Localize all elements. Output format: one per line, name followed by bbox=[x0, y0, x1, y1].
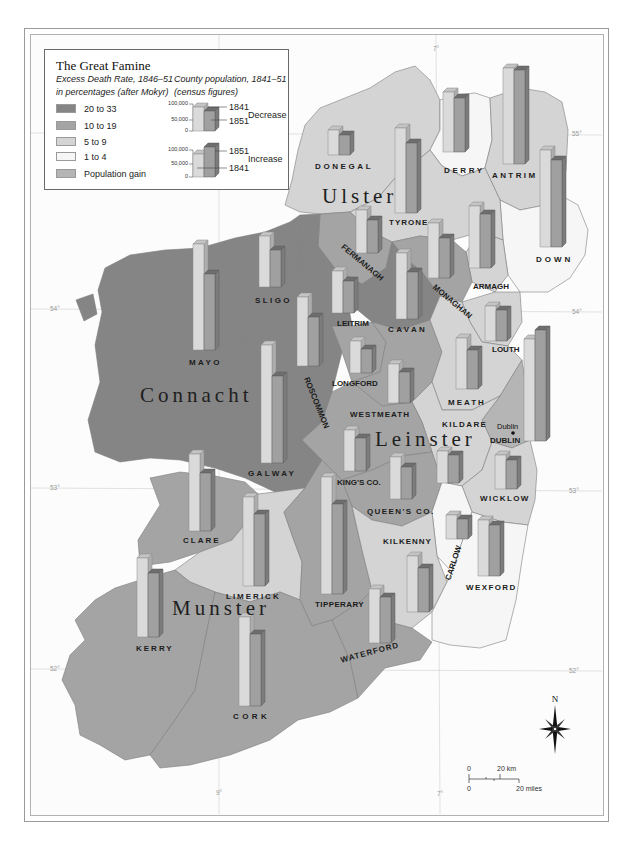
county-label-leitrim: LEITRIM bbox=[337, 320, 369, 328]
population-bar-1851 bbox=[200, 469, 215, 531]
county-bars-down bbox=[540, 146, 566, 247]
county-label-queens: QUEEN'S CO. bbox=[367, 508, 435, 516]
population-bar-1851 bbox=[551, 156, 566, 247]
county-label-louth: LOUTH bbox=[492, 346, 520, 354]
county-label-meath: MEATH bbox=[448, 399, 486, 407]
population-heading: County population, 1841–51 bbox=[174, 75, 287, 84]
increase-axis-tick-0: 0 bbox=[185, 174, 188, 180]
population-bar-1851 bbox=[367, 216, 382, 253]
longitude-label-9-bottom: 9° bbox=[216, 790, 222, 797]
population-bar-1851 bbox=[399, 368, 414, 403]
latitude-label-52-left: 52° bbox=[50, 666, 60, 673]
population-bar-1851 bbox=[343, 277, 358, 313]
county-bars-antrim bbox=[503, 64, 529, 164]
decrease-label-1851: 1851 bbox=[229, 117, 249, 126]
latitude-label-52-right: 52° bbox=[569, 668, 579, 675]
province-label-connacht: Connacht bbox=[140, 385, 252, 406]
increase-axis-tick-50000: 50,000 bbox=[171, 161, 188, 167]
county-label-limerick: LIMERICK bbox=[226, 593, 281, 601]
population-bar-1851 bbox=[401, 463, 416, 499]
population-bar-1851 bbox=[339, 131, 354, 155]
death-rate-heading: Excess Death Rate, 1846–51 bbox=[56, 75, 173, 84]
increase-label-1841: 1841 bbox=[229, 164, 249, 173]
swatch-10-to-19 bbox=[56, 121, 76, 130]
longitude-label-7-top: 7° bbox=[433, 46, 439, 53]
county-bars-kildare bbox=[437, 447, 463, 483]
population-bar-1851 bbox=[418, 564, 433, 612]
county-bars-dublin bbox=[524, 326, 550, 441]
increase-trend-label: Increase bbox=[248, 155, 283, 164]
population-bar-1851 bbox=[204, 270, 219, 350]
population-bar-1851 bbox=[332, 500, 347, 594]
county-label-kerry: KERRY bbox=[136, 645, 174, 653]
population-bar-1851 bbox=[148, 569, 163, 637]
scale-mi-zero: 0 bbox=[467, 785, 471, 792]
population-bar-1851 bbox=[506, 456, 521, 489]
north-label: N bbox=[552, 695, 559, 704]
scale-mi-label: 20 miles bbox=[516, 785, 542, 792]
decrease-axis-tick-0: 0 bbox=[185, 128, 188, 134]
county-label-wexford: WEXFORD bbox=[466, 584, 517, 592]
latitude-label-54-left: 54° bbox=[50, 306, 60, 313]
county-label-kilkenny: KILKENNY bbox=[383, 538, 432, 546]
scale-bar bbox=[469, 774, 519, 783]
swatch-label-10-to-19: 10 to 19 bbox=[84, 122, 117, 131]
swatch-5-to-9 bbox=[56, 137, 76, 146]
province-label-leinster: Leinster bbox=[375, 429, 476, 450]
swatch-label-20-to-33: 20 to 33 bbox=[84, 105, 117, 114]
legend-box: The Great Famine Excess Death Rate, 1846… bbox=[44, 49, 289, 190]
population-bar-1851 bbox=[448, 451, 463, 483]
legend-increase-bar-1851 bbox=[204, 143, 219, 177]
county-label-kings: KING'S CO. bbox=[337, 479, 381, 487]
population-bar-1851 bbox=[535, 326, 550, 441]
county-label-down: DOWN bbox=[536, 256, 573, 264]
swatch-label-population-gain: Population gain bbox=[84, 170, 146, 179]
county-bars-derry bbox=[443, 88, 469, 152]
population-bar-1851 bbox=[254, 510, 269, 586]
longitude-label-7-bottom: 7° bbox=[437, 791, 443, 798]
county-label-westmeath: WESTMEATH bbox=[350, 411, 410, 419]
county-bars-carlow bbox=[446, 511, 472, 539]
population-bar-1851 bbox=[514, 66, 529, 164]
decrease-axis-tick-100000: 100,000 bbox=[168, 101, 188, 107]
legend-title: The Great Famine bbox=[56, 58, 151, 74]
county-label-galway: GALWAY bbox=[248, 470, 296, 478]
county-label-dublin: DUBLIN bbox=[490, 437, 520, 445]
latitude-label-54-right: 54° bbox=[572, 309, 582, 316]
population-bar-1851 bbox=[380, 593, 395, 643]
county-bars-kerry bbox=[137, 554, 163, 637]
population-bar-1851 bbox=[361, 345, 376, 373]
county-label-cavan: CAVAN bbox=[388, 326, 427, 334]
county-bars-waterford bbox=[369, 585, 395, 643]
swatch-population-gain bbox=[56, 169, 76, 178]
county-label-armagh: ARMAGH bbox=[473, 283, 509, 291]
population-bar-1851 bbox=[439, 234, 454, 278]
population-bar-1851 bbox=[480, 210, 495, 268]
county-region-mayo-achill-island[interactable] bbox=[76, 294, 97, 321]
county-bars-armagh bbox=[469, 202, 495, 268]
county-label-derry: DERRY bbox=[444, 167, 485, 175]
population-bar-1851 bbox=[250, 630, 265, 706]
decrease-trend-label: Decrease bbox=[248, 111, 287, 120]
county-label-antrim: ANTRIM bbox=[492, 172, 538, 180]
population-bar-1851 bbox=[272, 372, 287, 463]
county-label-tyrone: TYRONE bbox=[389, 219, 428, 227]
city-label-dublin: Dublin bbox=[497, 423, 518, 431]
latitude-label-53-right: 53° bbox=[569, 488, 579, 495]
increase-axis-tick-100000: 100,000 bbox=[168, 147, 188, 153]
legend-decrease-bar-1851 bbox=[204, 107, 219, 131]
decrease-axis-tick-50000: 50,000 bbox=[171, 117, 188, 123]
county-label-clare: CLARE bbox=[183, 537, 221, 545]
compass-rose-icon bbox=[539, 705, 571, 754]
county-label-wicklow: WICKLOW bbox=[480, 495, 530, 503]
famine-map-page: 55° 54° 54° 53° 53° 52° 52° 7° 7° 9° Uls… bbox=[0, 0, 629, 848]
county-bars-wicklow bbox=[495, 451, 521, 489]
population-bar-1851 bbox=[407, 268, 422, 319]
latitude-label-53-left: 53° bbox=[50, 485, 60, 492]
death-rate-subheading: in percentages (after Mokyr) bbox=[56, 88, 169, 97]
swatch-label-5-to-9: 5 to 9 bbox=[84, 138, 107, 147]
swatch-label-1-to-4: 1 to 4 bbox=[84, 153, 107, 162]
county-label-longford: LONGFORD bbox=[332, 380, 378, 388]
swatch-1-to-4 bbox=[56, 152, 76, 161]
county-label-cork: CORK bbox=[233, 713, 270, 721]
